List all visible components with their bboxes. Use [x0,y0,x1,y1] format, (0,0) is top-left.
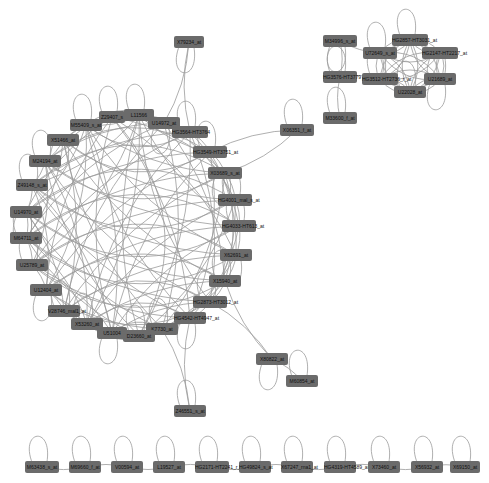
node-label: M24194_at [32,158,57,164]
graph-node[interactable]: X06351_f_at [280,124,314,136]
node-label: HG2857-HT3031_at [392,37,437,43]
graph-node[interactable]: U22028_at [394,86,426,98]
graph-node[interactable]: HG3576-HT3779 [323,71,357,83]
node-label: HG49824_s_at [239,464,273,470]
node-label: M69660_f_at [70,464,99,470]
node-label: U72649_s_at [365,50,395,56]
graph-node[interactable]: U72649_s_at [363,47,397,59]
edge-layer [0,0,489,483]
graph-node[interactable]: HG49824_s_at [239,461,271,473]
node-label: M63438_s_at [27,464,57,470]
node-label: X79234_at [177,39,201,45]
graph-node[interactable]: X15940_at [209,275,241,287]
graph-node[interactable]: M33600_f_at [323,112,357,124]
node-label: Z49148_s_at [17,182,46,188]
graph-node[interactable]: M64711_at [10,232,42,244]
node-label: M60854_at [289,378,314,384]
edge [225,281,272,359]
graph-node[interactable]: M60854_at [286,375,318,387]
graph-node[interactable]: X80822_at [256,353,288,365]
graph-node[interactable]: U21689_at [424,73,456,85]
node-label: X15940_at [213,278,237,284]
graph-node[interactable]: HG2857-HT3031_at [392,34,428,46]
node-label: HG2873-HT3012_at [193,299,238,305]
graph-node[interactable]: D23660_at [123,330,155,342]
node-label: HG4542-HT4947_at [174,315,219,321]
node-label: X06351_f_at [283,127,311,133]
graph-node[interactable]: L19527_at [153,461,185,473]
node-label: V00594_at [115,464,139,470]
node-label: U25789_at [20,262,44,268]
node-label: M34996_s_at [325,38,355,44]
node-label: HG3564-HT3764 [172,129,210,135]
node-label: HG3549-HT3751_at [193,149,238,155]
node-label: Z46551_s_at [175,408,204,414]
graph-node[interactable]: Z29407_s [99,111,125,123]
graph-node[interactable]: M34996_s_at [323,35,357,47]
node-label: U14970_at [14,209,38,215]
graph-node[interactable]: HG3564-HT3764 [172,126,208,138]
node-label: HG4319-HT4589_at [324,464,369,470]
node-label: X73460_at [372,464,396,470]
node-label: U12404_at [34,287,58,293]
graph-node[interactable]: V00594_at [111,461,143,473]
graph-node[interactable]: HG4033-HT613_at [222,220,256,232]
node-label: X67247_rna1_at [281,464,318,470]
edge [184,318,190,411]
graph-node[interactable]: X73460_at [368,461,400,473]
graph-node[interactable]: V28746_mal1_at [48,305,80,317]
graph-node[interactable]: U25789_at [16,259,48,271]
graph-node[interactable]: HG3549-HT3751_at [193,146,227,158]
graph-node[interactable]: Z49148_s_at [16,179,48,191]
node-label: V28746_mal1_at [48,308,86,314]
graph-node[interactable]: M63438_s_at [25,461,59,473]
graph-node[interactable]: HG4542-HT4947_at [174,312,206,324]
network-diagram: X79234_atZ29407_sL11566U14972_atM55409_s… [0,0,489,483]
graph-node[interactable]: M69660_f_at [69,461,101,473]
graph-node[interactable]: X51466_at [47,134,79,146]
node-label: HG2171-HT2241_r_at [195,464,244,470]
node-label: X56932_at [415,464,439,470]
edge [210,302,272,359]
node-label: L19527_at [157,464,181,470]
edge [26,173,225,238]
node-label: M55409_s_at [71,122,101,128]
edge [32,200,235,265]
graph-node[interactable]: M24194_at [29,155,61,167]
edge [184,42,190,132]
graph-node[interactable]: M55409_s_at [70,119,102,131]
graph-node[interactable]: X03689_s_at [208,167,242,179]
node-label: X62691_at [224,252,248,258]
node-label: HG2147-HT2217_at [422,50,467,56]
graph-node[interactable]: X67247_rna1_at [281,461,313,473]
node-label: M33600_f_at [325,115,354,121]
node-label: X03689_s_at [210,170,239,176]
graph-node[interactable]: X62691_at [220,249,252,261]
node-label: U22028_at [398,89,422,95]
graph-node[interactable]: X69150_at [450,461,480,473]
node-label: L11566 [131,112,147,118]
graph-node[interactable]: X56932_at [411,461,443,473]
node-label: U21689_at [428,76,452,82]
graph-node[interactable]: HG2873-HT3012_at [193,296,227,308]
graph-node[interactable]: U12404_at [30,284,62,296]
node-label: D23660_at [127,333,151,339]
node-label: Z29407_s [101,114,123,120]
node-label: X51466_at [51,137,75,143]
graph-node[interactable]: HG3512-HT2736_r_at [362,73,398,85]
node-label: X80822_at [260,356,284,362]
node-label: HG4033-HT613_at [222,223,264,229]
node-label: U51004 [103,330,121,336]
graph-node[interactable]: Z46551_s_at [174,405,206,417]
graph-node[interactable]: HG2147-HT2217_at [422,47,458,59]
graph-node[interactable]: U14970_at [10,206,42,218]
node-label: HG3512-HT2736_r_at [362,76,411,82]
node-label: HG4001_mal_s_at [218,197,260,203]
graph-node[interactable]: HG4319-HT4589_at [324,461,356,473]
node-label: X69150_at [453,464,477,470]
graph-node[interactable]: X79234_at [174,36,204,48]
node-label: HG3576-HT3779 [323,74,361,80]
node-label: X53260_at [75,321,99,327]
graph-node[interactable]: HG4001_mal_s_at [218,194,252,206]
graph-node[interactable]: HG2171-HT2241_r_at [195,461,229,473]
